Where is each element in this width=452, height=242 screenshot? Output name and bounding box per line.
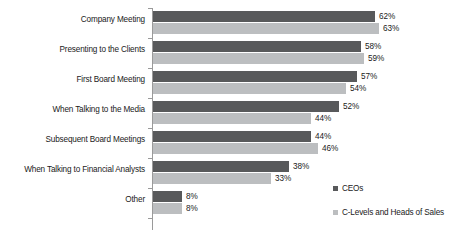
bar bbox=[153, 83, 346, 94]
bar-fill bbox=[153, 41, 361, 52]
bar bbox=[153, 41, 361, 52]
bar-group: Presenting to the Clients58%59% bbox=[0, 38, 452, 68]
bar-value-label: 8% bbox=[186, 192, 198, 202]
legend-square-marker-icon bbox=[333, 210, 338, 215]
bar-value-label: 59% bbox=[368, 54, 384, 64]
bar bbox=[153, 113, 311, 124]
bar-value-label: 57% bbox=[361, 72, 377, 82]
bar-fill bbox=[153, 23, 379, 34]
bar bbox=[153, 161, 289, 172]
bar-fill bbox=[153, 161, 289, 172]
bar-fill bbox=[153, 71, 357, 82]
bar-value-label: 46% bbox=[322, 144, 338, 154]
bar-fill bbox=[153, 53, 364, 64]
bar-fill bbox=[153, 173, 271, 184]
bar-value-label: 8% bbox=[186, 204, 198, 214]
bar bbox=[153, 101, 339, 112]
bar-value-label: 62% bbox=[379, 12, 395, 22]
category-label: Other bbox=[0, 195, 145, 205]
category-label: When Talking to Financial Analysts bbox=[0, 165, 145, 175]
category-label: When Talking to the Media bbox=[0, 105, 145, 115]
bar-value-label: 52% bbox=[343, 102, 359, 112]
bar-group: Subsequent Board Meetings44%46% bbox=[0, 128, 452, 158]
legend-label: CEOs bbox=[342, 183, 363, 195]
bar-value-label: 33% bbox=[275, 174, 291, 184]
bar-fill bbox=[153, 191, 182, 202]
bar-value-label: 63% bbox=[383, 24, 399, 34]
bar bbox=[153, 191, 182, 202]
bar bbox=[153, 173, 271, 184]
axis-tick bbox=[148, 218, 152, 219]
plot-area: Company Meeting62%63%Presenting to the C… bbox=[0, 0, 452, 242]
bar-chart: Company Meeting62%63%Presenting to the C… bbox=[0, 0, 452, 242]
bar-value-label: 54% bbox=[350, 84, 366, 94]
bar-group: When Talking to the Media52%44% bbox=[0, 98, 452, 128]
category-label: First Board Meeting bbox=[0, 75, 145, 85]
bar-value-label: 38% bbox=[293, 162, 309, 172]
category-label: Presenting to the Clients bbox=[0, 45, 145, 55]
bar bbox=[153, 203, 182, 214]
bar-fill bbox=[153, 143, 318, 154]
category-label: Company Meeting bbox=[0, 15, 145, 25]
bar-fill bbox=[153, 113, 311, 124]
bar-fill bbox=[153, 131, 311, 142]
bar bbox=[153, 53, 364, 64]
bar-value-label: 44% bbox=[315, 114, 331, 124]
bar bbox=[153, 143, 318, 154]
bar bbox=[153, 11, 375, 22]
bar bbox=[153, 23, 379, 34]
bar-fill bbox=[153, 101, 339, 112]
bar-group: When Talking to Financial Analysts38%33% bbox=[0, 158, 452, 188]
bar-value-label: 58% bbox=[365, 42, 381, 52]
bar-fill bbox=[153, 203, 182, 214]
bar-fill bbox=[153, 83, 346, 94]
legend-label: C-Levels and Heads of Sales bbox=[342, 207, 444, 219]
legend-square-marker-icon bbox=[333, 186, 338, 191]
bar-group: First Board Meeting57%54% bbox=[0, 68, 452, 98]
bar bbox=[153, 71, 357, 82]
bar-fill bbox=[153, 11, 375, 22]
bar-group: Company Meeting62%63% bbox=[0, 8, 452, 38]
bar bbox=[153, 131, 311, 142]
category-label: Subsequent Board Meetings bbox=[0, 135, 145, 145]
bar-value-label: 44% bbox=[315, 132, 331, 142]
